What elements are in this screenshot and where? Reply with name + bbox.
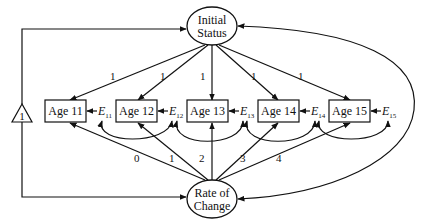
observed-age14: Age 14 [258,100,299,122]
slope-loading-11: 0 [134,152,140,164]
initial-to-age14 [216,45,278,100]
error-e13: E13 [239,104,255,120]
error-e12: E12 [168,104,184,120]
intercept-loading-12: 1 [160,70,166,82]
initial-to-age15 [219,45,350,100]
rate-of-change-factor: Rate of Change [187,180,237,218]
intercept-loading-15: 1 [298,70,304,82]
age15-label: Age 15 [332,104,367,118]
observed-age13: Age 13 [187,100,228,122]
constant-label: 1 [19,110,25,122]
e12-e13-covariance [177,121,243,141]
observed-age11: Age 11 [45,100,86,122]
constant-triangle: 1 [12,104,32,122]
observed-age15: Age 15 [329,100,370,122]
error-e11: E11 [97,104,113,120]
age11-label: Age 11 [48,104,83,118]
e14-e15-covariance [319,121,388,139]
rate-to-age14 [216,123,278,180]
e13-e14-covariance [247,121,315,141]
slope-loading-13: 2 [199,152,205,164]
observed-age12: Age 12 [116,100,157,122]
rate-of-change-line2: Change [194,199,231,213]
initial-status-line2: Status [197,26,227,40]
slope-loading-15: 4 [276,152,282,164]
initial-to-age11 [70,45,205,100]
constant-to-initial-path [22,29,186,104]
initial-status-line1: Initial [198,13,227,27]
initial-status-factor: Initial Status [187,7,237,45]
intercept-loading-11: 1 [110,70,116,82]
growth-curve-diagram: Initial Status Rate of Change 1 Age 11 A… [0,0,426,223]
age12-label: Age 12 [119,104,154,118]
error-e14: E14 [310,104,326,120]
intercept-loading-13: 1 [200,70,206,82]
age13-label: Age 13 [190,104,225,118]
intercept-loading-14: 1 [251,70,257,82]
rate-of-change-line1: Rate of [195,186,230,200]
error-e15: E15 [381,104,397,120]
age14-label: Age 14 [261,104,296,118]
slope-loading-14: 3 [240,152,246,164]
initial-to-age12 [138,45,208,100]
slope-loading-12: 1 [169,152,175,164]
e11-e12-covariance [101,121,172,139]
